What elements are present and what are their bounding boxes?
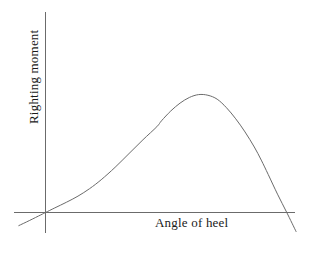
stability-curve-figure: Angle of heel Righting moment — [0, 0, 310, 255]
x-axis-label: Angle of heel — [155, 216, 228, 229]
axes-group — [14, 12, 295, 233]
righting-moment-curve — [19, 94, 296, 231]
y-axis-label: Righting moment — [27, 4, 40, 124]
